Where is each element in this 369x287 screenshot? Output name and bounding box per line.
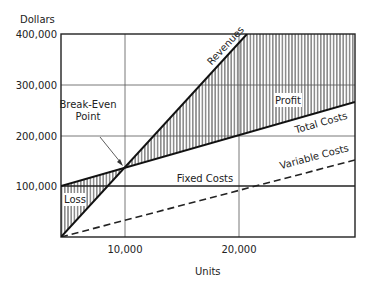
break-even-label-line1: Break-Even: [59, 99, 116, 110]
y-tick-200000: 200,000: [16, 131, 57, 142]
x-axis-label: Units: [195, 266, 221, 277]
profit-label: Profit: [275, 95, 301, 106]
x-tick-10000: 10,000: [108, 244, 143, 255]
break-even-chart: Dollars Units 400,000 300,000 200,000 10…: [0, 0, 369, 287]
y-axis-label: Dollars: [20, 14, 55, 25]
profit-region: [125, 34, 355, 167]
y-tick-100000: 100,000: [16, 181, 57, 192]
break-even-pointer: [100, 137, 121, 163]
variable-costs-label: Variable Costs: [278, 142, 350, 171]
fixed-costs-label: Fixed Costs: [177, 173, 234, 184]
break-even-arrowhead: [117, 159, 123, 166]
break-even-label-line2: Point: [76, 111, 101, 122]
variable-costs-line: [61, 160, 355, 237]
loss-label: Loss: [64, 194, 86, 205]
y-tick-400000: 400,000: [16, 29, 57, 40]
x-tick-20000: 20,000: [222, 244, 257, 255]
y-tick-300000: 300,000: [16, 80, 57, 91]
